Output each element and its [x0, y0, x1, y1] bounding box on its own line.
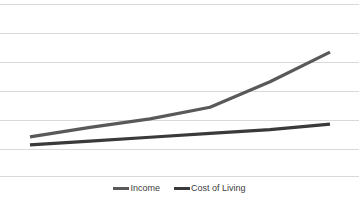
series-income — [30, 52, 330, 137]
line-chart: Income Cost of Living — [0, 0, 359, 197]
plot-area — [0, 0, 359, 178]
cost-of-living-line — [30, 124, 330, 145]
legend-item-label: Income — [130, 184, 160, 193]
legend-item-cost-of-living[interactable]: Cost of Living — [174, 184, 246, 193]
legend-item-income[interactable]: Income — [113, 184, 160, 193]
line-swatch-icon — [113, 187, 129, 190]
line-swatch-icon — [174, 187, 190, 190]
chart-canvas — [0, 0, 359, 178]
chart-legend: Income Cost of Living — [0, 180, 359, 197]
legend-item-label: Cost of Living — [191, 184, 246, 193]
series-cost-of-living — [30, 124, 330, 145]
income-line — [30, 52, 330, 137]
